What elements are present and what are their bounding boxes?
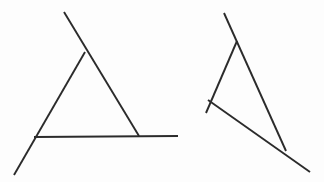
- left-base-stroke: [34, 136, 178, 137]
- figure-canvas: [0, 0, 324, 182]
- canvas-background: [0, 0, 324, 182]
- line-drawing-svg: [0, 0, 324, 182]
